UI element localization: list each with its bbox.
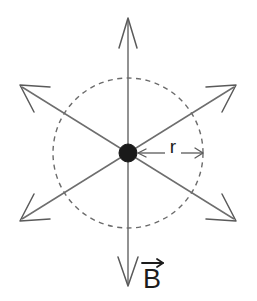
field-label: B	[143, 264, 161, 294]
center-point-source	[119, 144, 137, 162]
physics-diagram: r B	[0, 0, 257, 301]
radius-label: r	[170, 136, 177, 157]
diagram-canvas: r B	[0, 0, 257, 301]
field-vector-label-group: B	[142, 259, 163, 294]
